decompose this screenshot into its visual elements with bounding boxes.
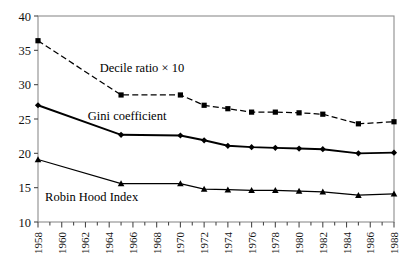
data-point-marker (35, 38, 40, 43)
x-tick-label: 1966 (127, 232, 139, 255)
data-point-marker (118, 92, 123, 97)
line-chart: 10152025303540 1958196019621964196619681… (0, 0, 414, 274)
y-tick-label: 25 (19, 113, 32, 127)
x-tick-label: 1974 (222, 232, 234, 255)
y-tick-label: 40 (19, 10, 32, 24)
x-tick-label: 1986 (364, 232, 376, 255)
x-tick-label: 1988 (388, 232, 400, 255)
x-tick-label: 1964 (103, 232, 115, 255)
x-tick-label: 1970 (174, 232, 186, 255)
x-tick-label: 1984 (341, 232, 353, 255)
x-tick-label: 1976 (246, 232, 258, 255)
data-point-marker (296, 110, 301, 115)
y-tick-label: 20 (19, 147, 32, 161)
x-tick-label: 1960 (56, 232, 68, 255)
chart-container: 10152025303540 1958196019621964196619681… (0, 0, 414, 274)
data-point-marker (178, 92, 183, 97)
x-tick-label: 1958 (32, 232, 44, 255)
x-tick-label: 1982 (317, 232, 329, 254)
data-point-marker (273, 110, 278, 115)
y-tick-label: 35 (19, 44, 32, 58)
data-point-marker (202, 103, 207, 108)
x-tick-label: 1968 (151, 232, 163, 255)
x-tick-label: 1972 (198, 232, 210, 254)
x-tick-label: 1978 (269, 232, 281, 255)
data-point-marker (320, 112, 325, 117)
series-annotation-label: Gini coefficient (88, 109, 167, 123)
y-tick-label: 10 (19, 216, 32, 230)
y-tick-label: 30 (19, 78, 32, 92)
x-tick-label: 1962 (79, 232, 91, 254)
series-annotation-label: Robin Hood Index (45, 190, 139, 204)
y-tick-label: 15 (19, 181, 32, 195)
data-point-marker (249, 110, 254, 115)
x-tick-label: 1980 (293, 232, 305, 255)
data-point-marker (391, 119, 396, 124)
data-point-marker (225, 106, 230, 111)
series-annotation-label: Decile ratio × 10 (100, 61, 184, 75)
data-point-marker (356, 121, 361, 126)
